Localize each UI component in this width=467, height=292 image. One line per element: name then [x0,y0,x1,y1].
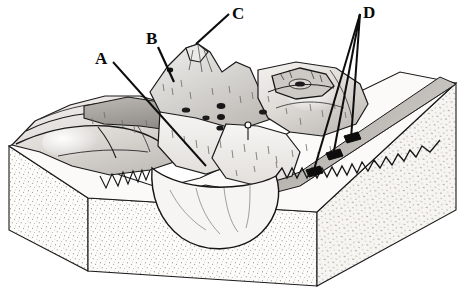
tarn-lake-upper [295,81,305,86]
tarn-6 [259,109,267,114]
label-c: C [232,5,244,22]
leader-line-c [196,14,229,44]
block-diagram-illustration [0,0,467,292]
tarn-3 [217,103,226,109]
tarn-4 [217,114,225,120]
tarn-1 [182,107,190,112]
figure-canvas: A B C D [0,0,467,292]
label-b: B [146,30,157,47]
label-a: A [95,50,107,67]
label-d: D [363,4,375,21]
tarn-5 [216,125,223,130]
cirque-lake-light [245,122,251,128]
tarn-2 [202,116,209,121]
